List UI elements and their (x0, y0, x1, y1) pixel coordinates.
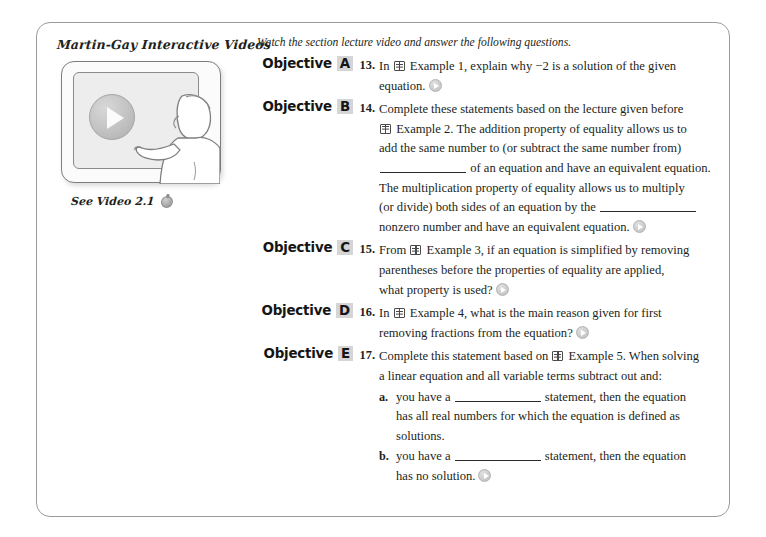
question-line: Complete this statement based on Example… (379, 347, 715, 367)
question-line: removing fractions from the equation? (379, 324, 715, 344)
example-book-icon[interactable] (380, 124, 391, 134)
objective-item-b: ObjectiveB14.Complete these statements b… (255, 98, 715, 237)
objective-label: ObjectiveB (255, 98, 353, 114)
question-body: Complete this statement based on Example… (379, 345, 715, 486)
sub-question-marker: b. (379, 447, 396, 467)
question-text: Example 3, if an equation is simplified … (423, 243, 689, 257)
question-text: solutions. (396, 429, 445, 443)
question-number: 15. (353, 239, 379, 257)
objective-item-c: ObjectiveC15.From Example 3, if an equat… (255, 239, 715, 300)
objective-item-d: ObjectiveD16.In Example 4, what is the m… (255, 302, 715, 343)
question-line: In Example 4, what is the main reason gi… (379, 304, 715, 324)
play-video-icon[interactable] (633, 220, 646, 233)
objective-label: ObjectiveD (255, 302, 353, 318)
presenter-silhouette (134, 90, 220, 184)
question-number: 16. (353, 302, 379, 320)
question-text: of an equation and have an equivalent eq… (467, 161, 711, 175)
example-book-icon[interactable] (410, 245, 421, 255)
objective-word: Objective (262, 99, 332, 114)
question-text: equation. (379, 79, 426, 93)
objective-item-a: ObjectiveA13.In Example 1, explain why −… (255, 55, 715, 96)
video-caption: See Video 2.1 (71, 195, 256, 208)
objective-letter-badge: D (336, 303, 353, 318)
question-text: In (379, 59, 393, 73)
play-video-icon[interactable] (429, 79, 442, 92)
video-sidebar: Martin-Gay Interactive Videos (55, 37, 255, 208)
question-line: of an equation and have an equivalent eq… (379, 159, 715, 179)
play-button-icon[interactable] (89, 94, 135, 140)
question-body: In Example 1, explain why −2 is a soluti… (379, 55, 715, 96)
question-line: add the same number to (or subtract the … (379, 139, 715, 159)
objective-word: Objective (262, 56, 332, 71)
example-book-icon[interactable] (552, 351, 563, 361)
question-text: Example 1, explain why −2 is a solution … (407, 59, 676, 73)
fill-in-blank[interactable] (455, 450, 541, 461)
question-number: 13. (353, 55, 379, 73)
brand-title: Martin-Gay Interactive Videos (56, 37, 255, 52)
question-body: Complete these statements based on the l… (379, 98, 715, 237)
question-line: Complete these statements based on the l… (379, 100, 715, 120)
video-caption-label: See Video 2.1 (71, 195, 155, 208)
objective-letter-badge: A (337, 56, 353, 71)
objective-label: ObjectiveE (255, 345, 353, 361)
objective-letter-badge: B (337, 99, 353, 114)
question-text: Complete this statement based on (379, 349, 551, 363)
questions-column: Watch the section lecture video and answ… (255, 36, 715, 488)
question-body: In Example 4, what is the main reason gi… (379, 302, 715, 343)
question-text: you have a (396, 449, 454, 463)
question-line: Example 2. The addition property of equa… (379, 120, 715, 140)
question-line: parentheses before the properties of equ… (379, 261, 715, 281)
objective-word: Objective (263, 346, 333, 361)
play-video-icon[interactable] (478, 469, 491, 482)
question-text: removing fractions from the equation? (379, 326, 573, 340)
objective-word: Objective (263, 240, 333, 255)
instruction-text: Watch the section lecture video and answ… (257, 36, 715, 49)
question-text: In (379, 306, 393, 320)
question-text: you have a (396, 390, 454, 404)
question-text: Example 2. The addition property of equa… (393, 122, 687, 136)
play-video-icon[interactable] (496, 283, 509, 296)
question-line: what property is used? (379, 281, 715, 301)
question-line: nonzero number and have an equivalent eq… (379, 218, 715, 238)
sub-question-a: a.you have a statement, then the equatio… (379, 388, 715, 447)
question-text: parentheses before the properties of equ… (379, 263, 664, 277)
video-illustration[interactable] (61, 61, 221, 189)
question-text: add the same number to (or subtract the … (379, 141, 681, 155)
question-line: (or divide) both sides of an equation by… (379, 198, 715, 218)
fill-in-blank[interactable] (455, 391, 541, 402)
objective-letter-badge: E (338, 346, 353, 361)
question-line: The multiplication property of equality … (379, 179, 715, 199)
question-text: a linear equation and all variable terms… (379, 369, 662, 383)
example-book-icon[interactable] (394, 308, 405, 318)
video-marker-icon (161, 196, 174, 208)
fill-in-blank[interactable] (380, 162, 466, 173)
fill-in-blank[interactable] (600, 201, 696, 212)
question-line: a linear equation and all variable terms… (379, 367, 715, 387)
question-text: has all real numbers for which the equat… (396, 409, 680, 423)
whiteboard-frame (61, 61, 221, 183)
question-line: has no solution. (396, 467, 715, 487)
sub-question-text: you have a statement, then the equationh… (396, 447, 715, 486)
question-line: you have a statement, then the equation (396, 388, 715, 408)
question-number: 17. (353, 345, 379, 363)
question-body: From Example 3, if an equation is simpli… (379, 239, 715, 300)
question-number: 14. (353, 98, 379, 116)
question-text: statement, then the equation (542, 449, 686, 463)
question-line: has all real numbers for which the equat… (396, 407, 715, 427)
question-text: what property is used? (379, 283, 493, 297)
objective-label: ObjectiveA (255, 55, 353, 71)
sub-question-text: you have a statement, then the equationh… (396, 388, 715, 447)
question-text: Example 5. When solving (565, 349, 699, 363)
question-line: From Example 3, if an equation is simpli… (379, 241, 715, 261)
sub-question-marker: a. (379, 388, 396, 408)
question-text: nonzero number and have an equivalent eq… (379, 220, 630, 234)
question-line: you have a statement, then the equation (396, 447, 715, 467)
example-book-icon[interactable] (394, 61, 405, 71)
objective-letter-badge: C (337, 240, 353, 255)
question-text: (or divide) both sides of an equation by… (379, 200, 599, 214)
play-video-icon[interactable] (576, 326, 589, 339)
question-text: Example 4, what is the main reason given… (407, 306, 662, 320)
objective-word: Objective (261, 303, 331, 318)
question-text: From (379, 243, 409, 257)
question-line: equation. (379, 77, 715, 97)
